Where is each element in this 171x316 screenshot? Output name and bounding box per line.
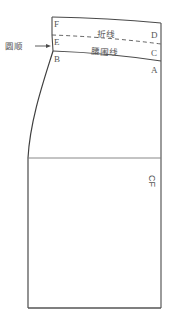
point-label-c: C [151, 48, 157, 58]
pattern-diagram: F E B D C A 折线 腰围线 圆顺 CF [0, 0, 171, 316]
fold-line-label: 折线 [97, 29, 115, 40]
point-label-a: A [151, 65, 158, 75]
point-label-d: D [151, 30, 158, 40]
point-label-f: F [54, 19, 59, 29]
waistband-top-edge [52, 17, 161, 23]
side-seam-curve [28, 51, 53, 158]
waistline-label: 腰围线 [91, 46, 118, 57]
center-front-label: CF [147, 175, 157, 187]
waistband-left-edge [52, 17, 53, 51]
smooth-curve-label: 圆顺 [5, 41, 23, 51]
arrow-head-icon [46, 44, 51, 48]
point-label-b: B [54, 54, 60, 64]
point-label-e: E [54, 37, 60, 47]
